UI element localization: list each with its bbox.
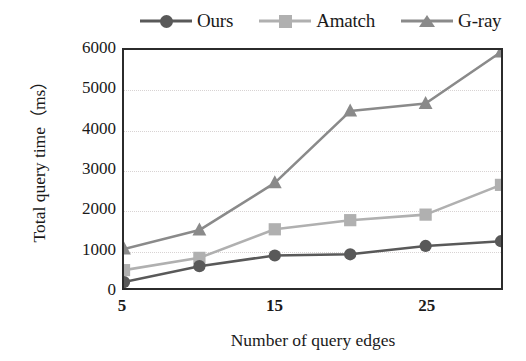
data-point bbox=[495, 235, 501, 247]
series-line bbox=[124, 185, 501, 270]
data-point bbox=[269, 223, 281, 235]
legend-swatch-gray bbox=[401, 20, 453, 23]
y-tick-label: 1000 bbox=[46, 241, 116, 258]
line-chart: Ours Amatch G-ray Total query time（ms） 0… bbox=[0, 0, 526, 361]
data-point bbox=[495, 179, 501, 191]
y-tick-label: 6000 bbox=[46, 39, 116, 56]
data-point bbox=[419, 96, 433, 109]
x-tick-label: 15 bbox=[254, 297, 294, 315]
y-tick-label: 2000 bbox=[46, 200, 116, 217]
data-series-layer bbox=[124, 50, 501, 288]
series-line bbox=[124, 52, 501, 249]
y-tick-label: 4000 bbox=[46, 120, 116, 137]
data-point bbox=[419, 209, 431, 221]
legend-item-ours[interactable]: Ours bbox=[140, 10, 233, 32]
x-axis-tick-labels: 51525 bbox=[0, 297, 526, 321]
data-point bbox=[419, 240, 431, 252]
data-point bbox=[193, 260, 205, 272]
data-point bbox=[124, 264, 130, 276]
legend-item-gray[interactable]: G-ray bbox=[401, 10, 501, 32]
y-tick-label: 3000 bbox=[46, 160, 116, 177]
chart-legend: Ours Amatch G-ray bbox=[140, 8, 520, 34]
y-tick-label: 5000 bbox=[46, 79, 116, 96]
legend-label-gray: G-ray bbox=[458, 10, 501, 32]
data-point bbox=[192, 223, 206, 236]
legend-label-ours: Ours bbox=[197, 10, 233, 32]
data-point bbox=[124, 276, 130, 288]
legend-label-amatch: Amatch bbox=[316, 10, 375, 32]
legend-swatch-amatch bbox=[259, 20, 311, 23]
data-point bbox=[494, 50, 501, 57]
y-tick-label: 0 bbox=[46, 281, 116, 298]
data-point bbox=[344, 214, 356, 226]
x-tick-label: 5 bbox=[102, 297, 142, 315]
legend-item-amatch[interactable]: Amatch bbox=[259, 10, 375, 32]
x-tick-label: 25 bbox=[407, 297, 447, 315]
series-amatch bbox=[124, 179, 501, 276]
plot-area bbox=[122, 48, 503, 290]
x-axis-title: Number of query edges bbox=[122, 330, 504, 351]
data-point bbox=[344, 248, 356, 260]
legend-swatch-ours bbox=[140, 20, 192, 23]
data-point bbox=[269, 249, 281, 261]
